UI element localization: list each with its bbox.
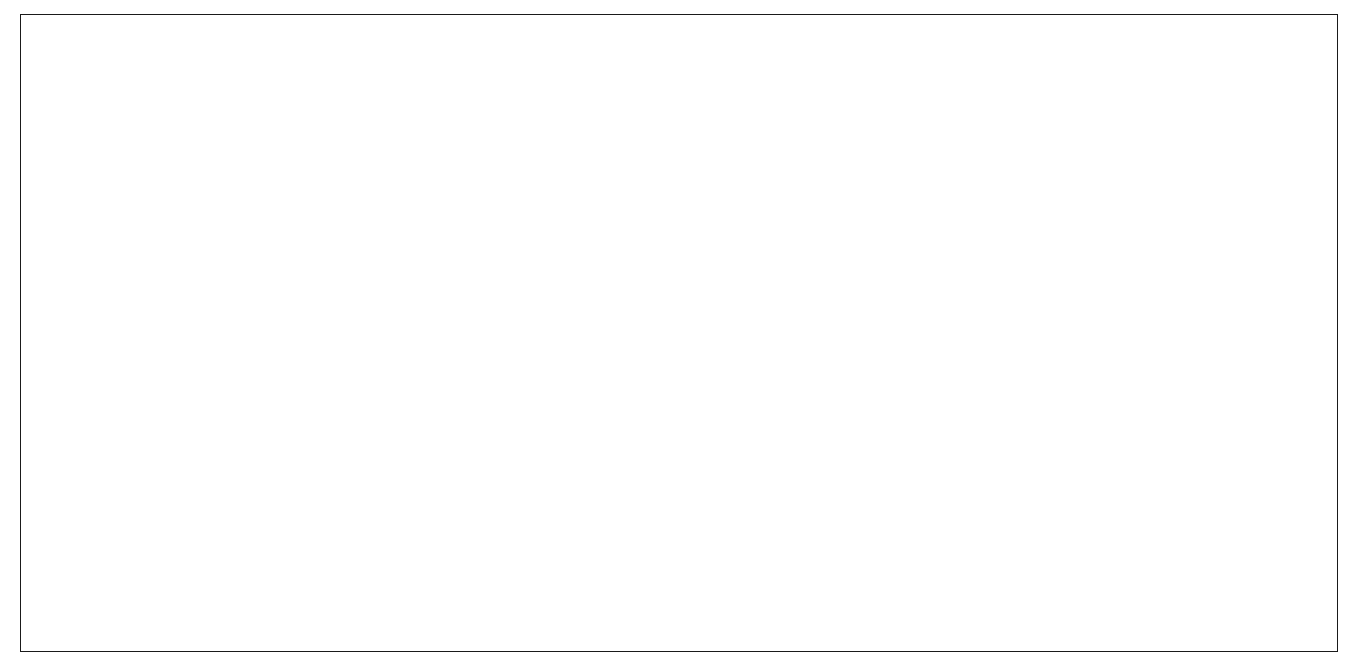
figure-border [20, 14, 1338, 652]
chart-figure: 0102030405060708090100 19902000201020202… [0, 0, 1357, 666]
